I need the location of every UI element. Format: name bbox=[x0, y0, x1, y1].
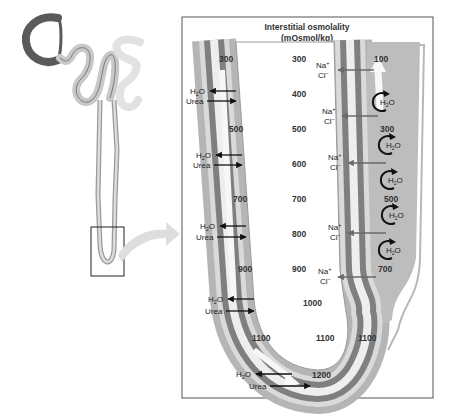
interstitial-value: 1000 bbox=[303, 298, 322, 308]
tubular-value: 700 bbox=[378, 264, 392, 274]
tubular-value: 500 bbox=[384, 194, 398, 204]
tubular-value: 300 bbox=[219, 54, 233, 64]
tubular-value: 1200 bbox=[312, 370, 331, 380]
tubular-value: 100 bbox=[374, 54, 388, 64]
zoom-connector-arrow bbox=[118, 222, 180, 262]
interstitial-value: 400 bbox=[292, 89, 306, 99]
svg-text:Urea: Urea bbox=[196, 233, 214, 242]
interstitial-value: 1100 bbox=[316, 333, 335, 343]
tubular-value: 500 bbox=[229, 124, 243, 134]
interstitial-value: 900 bbox=[292, 264, 306, 274]
tubular-value: 300 bbox=[380, 124, 394, 134]
svg-text:Urea: Urea bbox=[186, 97, 204, 106]
interstitial-value: 500 bbox=[292, 124, 306, 134]
svg-text:Urea: Urea bbox=[193, 161, 211, 170]
tubular-value: 1100 bbox=[252, 333, 271, 343]
interstitial-value: 300 bbox=[292, 54, 306, 64]
bowmans-capsule bbox=[26, 17, 58, 62]
svg-text:Urea: Urea bbox=[249, 382, 267, 391]
proximal-tubule bbox=[60, 48, 115, 102]
svg-text:Urea: Urea bbox=[205, 307, 223, 316]
panel-title-line1: Interstitial osmolality bbox=[264, 22, 349, 32]
interstitial-value: 700 bbox=[292, 194, 306, 204]
zoom-region-box bbox=[91, 227, 124, 276]
interstitial-value: 800 bbox=[292, 229, 306, 239]
distal-tubule bbox=[116, 40, 140, 108]
tubular-value: 700 bbox=[233, 194, 247, 204]
nephron-overview bbox=[26, 17, 180, 276]
tubular-value: 900 bbox=[238, 264, 252, 274]
loop-of-henle-diagram: Interstitial osmolality (mOsmol/kg) 300 … bbox=[0, 0, 453, 416]
interstitial-value: 600 bbox=[292, 159, 306, 169]
tubular-value: 1100 bbox=[358, 333, 377, 343]
